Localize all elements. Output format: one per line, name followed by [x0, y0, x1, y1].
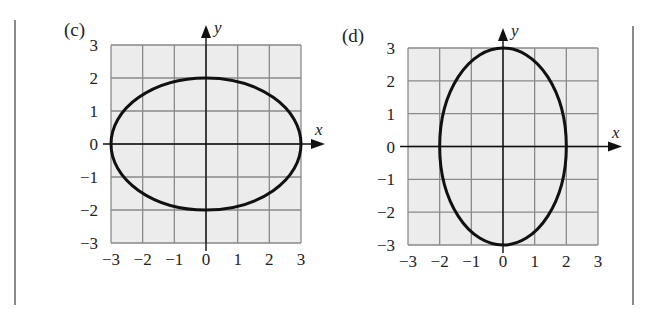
y-tick-label: −2	[377, 203, 395, 222]
x-tick-label: 3	[594, 252, 603, 271]
chart-panel-c: −3−2−101233210−1−2−3xy(c)	[64, 18, 325, 269]
x-tick-label: 2	[562, 252, 571, 271]
y-tick-label: 3	[387, 39, 396, 58]
x-axis-label: x	[314, 120, 323, 139]
y-tick-label: −3	[80, 234, 98, 253]
y-axis-arrow-icon	[201, 25, 211, 38]
charts-canvas: −3−2−101233210−1−2−3xy(c) −3−2−101233210…	[0, 0, 655, 309]
x-tick-label: 1	[530, 252, 539, 271]
x-axis-label: x	[611, 123, 620, 142]
y-axis-label: y	[509, 21, 519, 40]
x-tick-label: −2	[431, 252, 449, 271]
y-tick-label: 2	[387, 72, 396, 91]
y-axis-arrow-icon	[498, 28, 508, 41]
x-tick-label: 2	[265, 250, 274, 269]
x-tick-label: 0	[499, 252, 508, 271]
chart-panel-d: −3−2−101233210−1−2−3xy(d)	[342, 21, 622, 271]
panel-label: (c)	[64, 19, 85, 41]
x-tick-label: 3	[297, 250, 306, 269]
y-tick-label: −1	[80, 168, 98, 187]
x-tick-label: 1	[233, 250, 242, 269]
y-axis-label: y	[212, 18, 222, 37]
x-tick-label: −1	[165, 250, 183, 269]
y-tick-label: −2	[80, 201, 98, 220]
x-tick-label: 0	[202, 250, 211, 269]
x-axis-arrow-icon	[311, 139, 325, 149]
y-tick-label: 0	[90, 135, 99, 154]
y-tick-label: −1	[377, 170, 395, 189]
x-tick-label: −3	[102, 250, 120, 269]
y-tick-label: 3	[90, 36, 99, 55]
y-tick-label: 2	[90, 69, 99, 88]
y-tick-label: 1	[90, 102, 99, 121]
x-tick-label: −1	[462, 252, 480, 271]
y-tick-label: −3	[377, 236, 395, 255]
panel-label: (d)	[342, 25, 364, 47]
y-tick-label: 0	[387, 138, 396, 157]
y-tick-label: 1	[387, 105, 396, 124]
x-axis-arrow-icon	[608, 142, 622, 152]
x-tick-label: −3	[399, 252, 417, 271]
x-tick-label: −2	[134, 250, 152, 269]
